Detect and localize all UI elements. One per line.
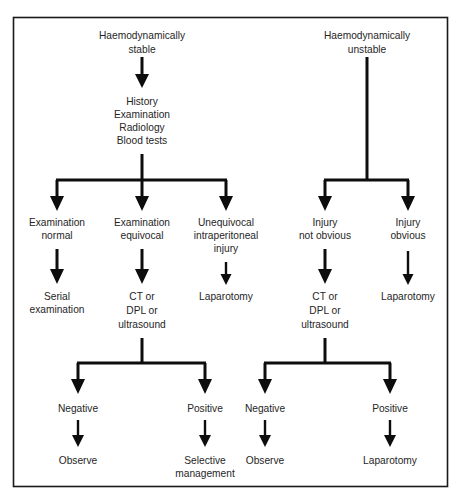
node-positive-left: Positive — [187, 403, 223, 414]
node-workup-line4: Blood tests — [117, 135, 167, 146]
node-negative-left-label: Negative — [58, 403, 99, 414]
flowchart-figure: Haemodynamically stable Haemodynamically… — [0, 0, 462, 504]
node-examination-normal-line2: normal — [41, 230, 72, 241]
node-examination-normal-line1: Examination — [29, 217, 85, 228]
node-laparotomy-bottom-label: Laparotomy — [363, 455, 418, 466]
node-observe-right-label: Observe — [246, 455, 285, 466]
node-positive-right-label: Positive — [372, 403, 408, 414]
node-negative-right-label: Negative — [245, 403, 286, 414]
node-haemodynamically-stable-line2: stable — [128, 44, 156, 55]
node-observe-left-label: Observe — [59, 455, 98, 466]
node-injury-not-obvious-line2: not obvious — [299, 230, 351, 241]
node-laparotomy-right-label: Laparotomy — [381, 291, 436, 302]
node-workup-line1: History — [126, 96, 159, 107]
node-negative-right: Negative — [245, 403, 286, 414]
node-laparotomy-mid-label: Laparotomy — [199, 291, 254, 302]
node-positive-left-label: Positive — [187, 403, 223, 414]
node-laparotomy-right: Laparotomy — [381, 291, 436, 302]
node-examination-equivocal-line2: equivocal — [120, 230, 163, 241]
node-examination-equivocal-line1: Examination — [114, 217, 170, 228]
node-workup-line3: Radiology — [119, 122, 165, 133]
node-ct-dpl-ultrasound-right-line1: CT or — [312, 291, 338, 302]
node-unequivocal-line1: Unequivocal — [198, 217, 254, 228]
node-ct-dpl-ultrasound-left-line3: ultrasound — [118, 319, 166, 330]
node-ct-dpl-ultrasound-left-line2: DPL or — [126, 305, 158, 316]
node-haemodynamically-unstable-line2: unstable — [348, 44, 387, 55]
node-unequivocal-line3: injury — [214, 243, 239, 254]
node-observe-left: Observe — [59, 455, 98, 466]
node-haemodynamically-unstable-line1: Haemodynamically — [324, 30, 411, 41]
node-negative-left: Negative — [58, 403, 99, 414]
node-injury-obvious-line2: obvious — [390, 230, 425, 241]
node-workup-line2: Examination — [114, 109, 170, 120]
node-serial-examination-line2: examination — [30, 304, 85, 315]
node-laparotomy-mid: Laparotomy — [199, 291, 254, 302]
node-laparotomy-bottom: Laparotomy — [363, 455, 418, 466]
node-ct-dpl-ultrasound-right-line3: ultrasound — [301, 319, 349, 330]
node-selective-management-line2: management — [175, 468, 235, 479]
node-positive-right: Positive — [372, 403, 408, 414]
flowchart-canvas: Haemodynamically stable Haemodynamically… — [0, 0, 462, 504]
node-injury-not-obvious-line1: Injury — [313, 217, 339, 228]
node-ct-dpl-ultrasound-right-line2: DPL or — [309, 305, 341, 316]
node-selective-management-line1: Selective — [184, 455, 226, 466]
node-serial-examination-line1: Serial — [44, 291, 70, 302]
node-unequivocal-line2: intraperitoneal — [194, 230, 259, 241]
node-haemodynamically-stable-line1: Haemodynamically — [99, 30, 186, 41]
node-observe-right: Observe — [246, 455, 285, 466]
node-ct-dpl-ultrasound-left-line1: CT or — [129, 291, 155, 302]
node-injury-obvious-line1: Injury — [396, 217, 422, 228]
